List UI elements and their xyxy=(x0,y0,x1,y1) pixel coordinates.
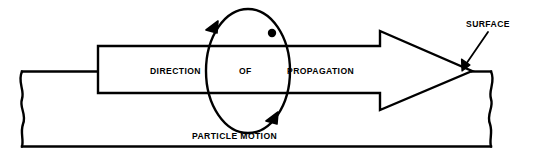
left-break-line xyxy=(20,72,24,147)
orbit-arrowhead-bottom-right xyxy=(266,112,278,124)
label-of: OF xyxy=(239,66,252,76)
label-propagation: PROPAGATION xyxy=(287,66,354,76)
diagram-canvas: DIRECTION OF PROPAGATION PARTICLE MOTION… xyxy=(0,0,539,159)
label-surface: SURFACE xyxy=(466,19,510,29)
surface-wave-diagram: DIRECTION OF PROPAGATION PARTICLE MOTION… xyxy=(0,0,539,159)
surface-leader-line xyxy=(464,32,488,67)
right-break-line xyxy=(489,72,493,147)
orbit-arrowhead-top-left xyxy=(206,21,218,33)
label-particle-motion: PARTICLE MOTION xyxy=(192,131,277,141)
particle-dot xyxy=(268,29,276,37)
label-direction: DIRECTION xyxy=(150,66,201,76)
